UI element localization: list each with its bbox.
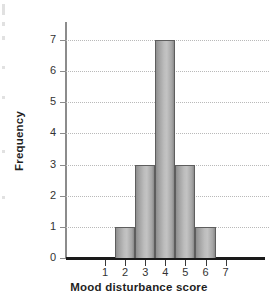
x-axis-tick-label: 4 (158, 267, 172, 278)
y-axis-line (65, 22, 67, 259)
y-axis-tick (60, 71, 66, 72)
y-axis-tick (60, 133, 66, 134)
histogram-bar (135, 165, 155, 258)
x-axis-title: Mood disturbance score (0, 281, 278, 293)
y-axis-tick-label: 6 (40, 65, 56, 76)
x-axis-tick-label: 7 (219, 267, 233, 278)
y-axis-title: Frequency (13, 86, 25, 196)
plot-area: 012345671234567 (0, 0, 278, 299)
y-axis-tick (60, 227, 66, 228)
x-axis-tick-label: 2 (118, 267, 132, 278)
y-axis-tick-label: 1 (40, 221, 56, 232)
y-axis-tick-label: 5 (40, 96, 56, 107)
y-axis-tick-label: 2 (40, 190, 56, 201)
y-axis-tick (60, 102, 66, 103)
y-axis-tick (60, 196, 66, 197)
y-axis-tick-label: 7 (40, 34, 56, 45)
y-axis-tick (60, 258, 66, 259)
x-axis-tick-label: 5 (178, 267, 192, 278)
histogram-figure: 012345671234567 Frequency Mood disturban… (0, 0, 278, 299)
x-axis-tick-label: 6 (199, 267, 213, 278)
y-axis-tick (60, 165, 66, 166)
histogram-bar (175, 165, 195, 258)
y-axis-tick (60, 40, 66, 41)
histogram-bar (155, 40, 175, 258)
histogram-bar (195, 227, 215, 258)
y-axis-tick-label: 4 (40, 127, 56, 138)
x-axis-tick-label: 1 (98, 267, 112, 278)
histogram-bar (115, 227, 135, 258)
x-axis-tick-label: 3 (138, 267, 152, 278)
y-axis-tick-label: 3 (40, 159, 56, 170)
y-axis-tick-label: 0 (40, 252, 56, 263)
